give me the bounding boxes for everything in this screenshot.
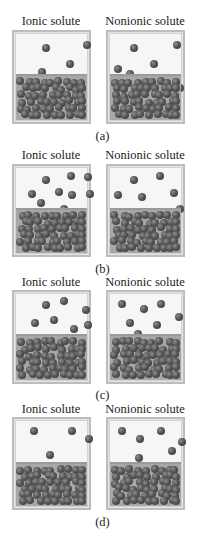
vapor-particle <box>60 297 68 305</box>
vapor-particle <box>46 451 54 459</box>
vapor-particle <box>136 435 144 443</box>
liquid-region <box>110 74 181 120</box>
solvent-particle <box>61 337 69 345</box>
nonionic-solution-container <box>106 30 185 124</box>
vapor-particle <box>130 44 138 52</box>
vapor-particle <box>66 60 74 68</box>
vapor-particle <box>28 190 36 198</box>
solvent-particle <box>66 111 74 119</box>
vapor-particle <box>114 65 122 73</box>
vapor-particle <box>138 193 146 201</box>
solvent-particle <box>172 497 180 505</box>
solvent-particle <box>120 85 128 93</box>
vapor-particle <box>42 44 50 52</box>
vapor-particle <box>55 188 63 196</box>
vapor-particle <box>118 427 126 435</box>
vapor-particle <box>85 435 93 443</box>
solvent-particle <box>145 244 153 252</box>
nonionic-solute-title: Nonionic solute <box>100 14 190 29</box>
solvent-particle <box>77 350 85 358</box>
vapor-particle <box>114 191 122 199</box>
solvent-particle <box>34 244 42 252</box>
solvent-particle <box>57 111 65 119</box>
solvent-particle <box>172 371 180 379</box>
vapor-particle <box>157 300 165 308</box>
vapor-region <box>16 34 87 78</box>
solvent-particle <box>55 91 63 99</box>
solvent-particle <box>78 497 86 505</box>
solvent-particle <box>69 337 77 345</box>
vapor-particle <box>82 306 90 314</box>
solvent-particle <box>160 497 168 505</box>
nonionic-solute-title: Nonionic solute <box>100 275 190 290</box>
vapor-region <box>16 294 87 338</box>
ionic-solution-container <box>12 30 91 124</box>
liquid-region <box>110 208 181 253</box>
vapor-particle <box>118 300 126 308</box>
ionic-solute-title: Ionic solute <box>6 402 96 417</box>
vapor-particle <box>67 172 75 180</box>
solvent-particle <box>61 224 69 232</box>
solvent-particle <box>172 111 180 119</box>
vapor-particle <box>168 447 176 455</box>
liquid-region <box>110 462 181 506</box>
nonionic-solution-container <box>106 417 185 510</box>
solvent-particle <box>112 217 120 225</box>
vapor-region <box>110 168 181 212</box>
solvent-particle <box>137 371 145 379</box>
panel-label-a: (a) <box>0 129 205 144</box>
solvent-particle <box>151 497 159 505</box>
solvent-particle <box>34 343 42 351</box>
solvent-particle <box>172 243 180 251</box>
vapor-particle <box>173 41 181 49</box>
vapor-particle <box>86 190 94 198</box>
vapor-particle <box>126 319 134 327</box>
vapor-particle <box>70 325 78 333</box>
solvent-particle <box>78 111 86 119</box>
solvent-particle <box>51 497 59 505</box>
solvent-particle <box>36 371 44 379</box>
vapor-particle <box>68 191 76 199</box>
solvent-particle <box>154 110 162 118</box>
vapor-particle <box>153 321 161 329</box>
vapor-region <box>16 421 87 466</box>
vapor-particle <box>157 427 165 435</box>
vapor-particle <box>50 316 58 324</box>
vapor-particle <box>130 176 138 184</box>
vapor-particle <box>68 427 76 435</box>
solvent-particle <box>141 90 149 98</box>
vapor-particle <box>31 319 39 327</box>
solvent-particle <box>145 111 153 119</box>
vapor-particle <box>42 176 50 184</box>
solvent-particle <box>46 478 54 486</box>
solvent-particle <box>121 111 129 119</box>
liquid-region <box>16 334 87 380</box>
ionic-solution-container <box>12 290 91 384</box>
solvent-particle <box>17 338 25 346</box>
solvent-particle <box>78 243 86 251</box>
vapor-particle <box>135 454 143 462</box>
vapor-particle <box>84 321 92 329</box>
vapor-region <box>110 421 181 466</box>
solvent-particle <box>64 497 72 505</box>
nonionic-solute-title: Nonionic solute <box>100 148 190 163</box>
ionic-solute-title: Ionic solute <box>6 14 96 29</box>
nonionic-solution-container <box>106 164 185 257</box>
panel-label-c: (c) <box>0 388 205 403</box>
vapor-region <box>16 168 87 212</box>
vapor-region <box>110 34 181 78</box>
solvent-particle <box>137 496 145 504</box>
solvent-particle <box>128 243 136 251</box>
vapor-particle <box>150 60 158 68</box>
vapor-particle <box>83 41 91 49</box>
solvent-particle <box>51 370 59 378</box>
liquid-region <box>16 74 87 120</box>
solvent-particle <box>18 371 26 379</box>
solvent-particle <box>136 110 144 118</box>
solvent-particle <box>50 343 58 351</box>
vapor-particle <box>84 173 92 181</box>
ionic-solute-title: Ionic solute <box>6 148 96 163</box>
vapor-region <box>110 294 181 338</box>
vapor-particle <box>42 301 50 309</box>
solvent-particle <box>33 111 41 119</box>
